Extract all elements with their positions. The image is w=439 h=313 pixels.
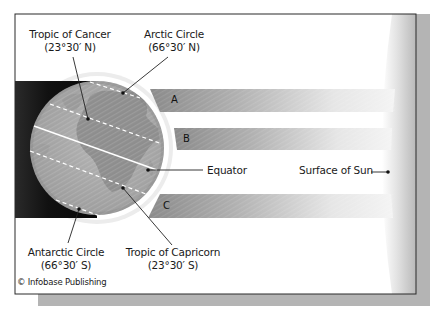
beam-label-a: A xyxy=(171,94,178,105)
label-tropic-of-capricorn: Tropic of Capricorn (23°30′ S) xyxy=(118,246,228,271)
beam-label-b: B xyxy=(183,133,190,144)
label-arctic-circle: Arctic Circle (66°30′ N) xyxy=(128,28,220,53)
label-name: Tropic of Capricorn xyxy=(118,246,228,259)
label-latitude: (23°30′ S) xyxy=(118,259,228,272)
label-latitude: (23°30′ N) xyxy=(22,41,118,54)
beam-label-c: C xyxy=(163,200,170,211)
label-surface-of-sun: Surface of Sun xyxy=(299,164,373,177)
label-name: Tropic of Cancer xyxy=(22,28,118,41)
label-equator: Equator xyxy=(207,164,247,177)
sun-surface xyxy=(382,14,416,294)
label-antarctic-circle: Antarctic Circle (66°30′ S) xyxy=(18,246,114,271)
label-tropic-of-cancer: Tropic of Cancer (23°30′ N) xyxy=(22,28,118,53)
copyright-credit: © Infobase Publishing xyxy=(17,277,107,287)
label-name: Arctic Circle xyxy=(128,28,220,41)
label-latitude: (66°30′ S) xyxy=(18,259,114,272)
label-latitude: (66°30′ N) xyxy=(128,41,220,54)
label-name: Antarctic Circle xyxy=(18,246,114,259)
